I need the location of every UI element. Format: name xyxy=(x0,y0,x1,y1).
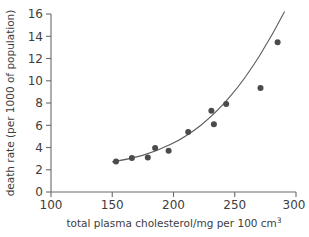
x-axis-tick-labels: 100 150 200 250 300 xyxy=(40,198,306,212)
data-point xyxy=(208,108,214,114)
chart-canvas: 0 2 4 6 8 10 12 14 16 100 150 200 250 30… xyxy=(0,0,309,237)
x-tick-label: 300 xyxy=(283,198,306,212)
y-tick-label: 10 xyxy=(28,74,43,88)
scatter-chart: 0 2 4 6 8 10 12 14 16 100 150 200 250 30… xyxy=(0,0,309,237)
x-axis-title-main: total plasma cholesterol/mg per 100 cm xyxy=(66,217,276,229)
y-tick-label: 16 xyxy=(28,7,43,21)
x-axis-title: total plasma cholesterol/mg per 100 cm3 xyxy=(66,216,281,229)
y-tick-label: 12 xyxy=(28,52,43,66)
data-point xyxy=(258,85,264,91)
x-tick-label: 200 xyxy=(162,198,185,212)
y-tick-label: 4 xyxy=(35,141,43,155)
data-point xyxy=(223,101,229,107)
y-axis-ticks xyxy=(46,14,51,192)
x-axis-ticks xyxy=(51,192,296,197)
y-axis-tick-labels: 0 2 4 6 8 10 12 14 16 xyxy=(28,7,43,199)
x-tick-label: 100 xyxy=(40,198,63,212)
x-axis-title-superscript: 3 xyxy=(277,216,282,225)
data-points xyxy=(113,39,281,164)
data-point xyxy=(166,148,172,154)
data-point xyxy=(152,145,158,151)
y-tick-label: 14 xyxy=(28,30,43,44)
x-tick-label: 250 xyxy=(223,198,246,212)
data-point xyxy=(145,155,151,161)
y-tick-label: 2 xyxy=(35,163,43,177)
y-tick-label: 8 xyxy=(35,96,43,110)
data-point xyxy=(129,155,135,161)
x-tick-label: 150 xyxy=(101,198,124,212)
data-point xyxy=(113,158,119,164)
data-point xyxy=(275,39,281,45)
y-tick-label: 6 xyxy=(35,119,43,133)
data-point xyxy=(185,129,191,135)
data-point xyxy=(211,121,217,127)
y-axis-title: death rate (per 1000 of population) xyxy=(4,10,16,197)
